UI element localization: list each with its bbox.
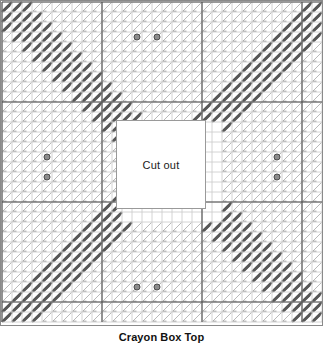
chart-caption: Crayon Box Top: [0, 328, 323, 345]
cut-out-label: Cut out: [143, 159, 180, 171]
cut-out-region: Cut out: [116, 120, 206, 209]
chart-frame: Cut out: [0, 0, 323, 326]
stitch-chart-page: Cut out Crayon Box Top: [0, 0, 323, 345]
